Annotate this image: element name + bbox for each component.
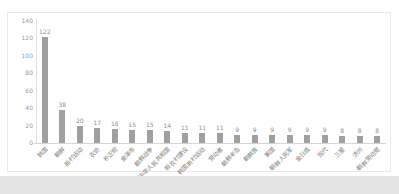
bar-column: 15朝鲜战争 [141, 13, 159, 173]
y-axis-tick-label: 120 [9, 35, 33, 41]
bar [129, 130, 135, 143]
bar [182, 133, 188, 143]
bar-value-label: 9 [281, 127, 299, 133]
y-axis-tick-label: 0 [9, 140, 33, 146]
bar [357, 136, 363, 143]
bar-column: 11新农村建设 [176, 13, 194, 173]
bar-value-label: 9 [229, 127, 247, 133]
bar-column: 11韩国新村运动 [194, 13, 212, 173]
bar-column: 8朝鲜劳动党 [369, 13, 387, 173]
bar [304, 135, 310, 143]
bar-column: 9美国 [264, 13, 282, 173]
bar [234, 135, 240, 143]
bar [252, 135, 258, 143]
bar-column: 20新村运动 [71, 13, 89, 173]
bar-column: 11劳动者 [211, 13, 229, 173]
bar-column: 38朝鲜 [54, 13, 72, 173]
bar [217, 133, 223, 143]
x-axis-label: 三星 [334, 146, 347, 159]
bar-value-label: 38 [54, 102, 72, 108]
bar-value-label: 15 [124, 122, 142, 128]
bar-column: 8济州 [351, 13, 369, 173]
y-axis-tick-label: 80 [9, 70, 33, 76]
bar-value-label: 8 [369, 128, 387, 134]
bar-value-label: 14 [159, 123, 177, 129]
bar [322, 135, 328, 143]
bar-value-label: 9 [316, 127, 334, 133]
y-axis-tick-label: 140 [9, 18, 33, 24]
bar-value-label: 122 [36, 29, 54, 35]
plot-area: 020406080100120140 122韩国38朝鲜20新村运动17农协16… [8, 13, 390, 171]
bar [374, 136, 380, 143]
bar-column: 9金日成 [299, 13, 317, 173]
bar-value-label: 15 [141, 122, 159, 128]
bar [147, 130, 153, 143]
bar [269, 135, 275, 143]
bar-value-label: 9 [246, 127, 264, 133]
bar [42, 37, 48, 143]
bar [112, 129, 118, 143]
x-axis-label: 现代 [316, 146, 329, 159]
bar-column: 9朝鲜半岛 [229, 13, 247, 173]
bar-value-label: 20 [71, 118, 89, 124]
bar-column: 16朴正熙 [106, 13, 124, 173]
y-axis-tick-label: 20 [9, 123, 33, 129]
bar [164, 131, 170, 143]
bar [77, 126, 83, 143]
x-axis-label: 朝鲜 [54, 146, 67, 159]
bar-value-label: 9 [299, 127, 317, 133]
y-axis-tick-label: 60 [9, 88, 33, 94]
footer-strip [0, 176, 399, 194]
bar-value-label: 17 [89, 120, 107, 126]
x-axis-label: 韩国 [36, 146, 49, 159]
bar-value-label: 9 [264, 127, 282, 133]
bar [59, 110, 65, 143]
x-axis-label: 美国 [264, 146, 277, 159]
bar [339, 136, 345, 143]
bar-column: 9朝鲜族 [246, 13, 264, 173]
bar-column: 9朝鲜人民军 [281, 13, 299, 173]
bar-column: 14中华人民共和国 [159, 13, 177, 173]
y-axis-tick-label: 100 [9, 53, 33, 59]
bar [94, 128, 100, 143]
bar-column: 9现代 [316, 13, 334, 173]
bar-value-label: 11 [176, 125, 194, 131]
bar-chart-panel: 020406080100120140 122韩国38朝鲜20新村运动17农协16… [7, 12, 391, 172]
bar-value-label: 8 [334, 128, 352, 134]
bar [287, 135, 293, 143]
bar-value-label: 11 [194, 125, 212, 131]
x-axis-label: 济州 [351, 146, 364, 159]
bar [199, 133, 205, 143]
bar-column: 122韩国 [36, 13, 54, 173]
bar-value-label: 16 [106, 121, 124, 127]
x-axis-label: 农协 [89, 146, 102, 159]
bar-value-label: 8 [351, 128, 369, 134]
bar-column: 17农协 [89, 13, 107, 173]
bar-column: 15金泽市 [124, 13, 142, 173]
bar-column: 8三星 [334, 13, 352, 173]
y-axis-tick-label: 40 [9, 105, 33, 111]
bar-value-label: 11 [211, 125, 229, 131]
